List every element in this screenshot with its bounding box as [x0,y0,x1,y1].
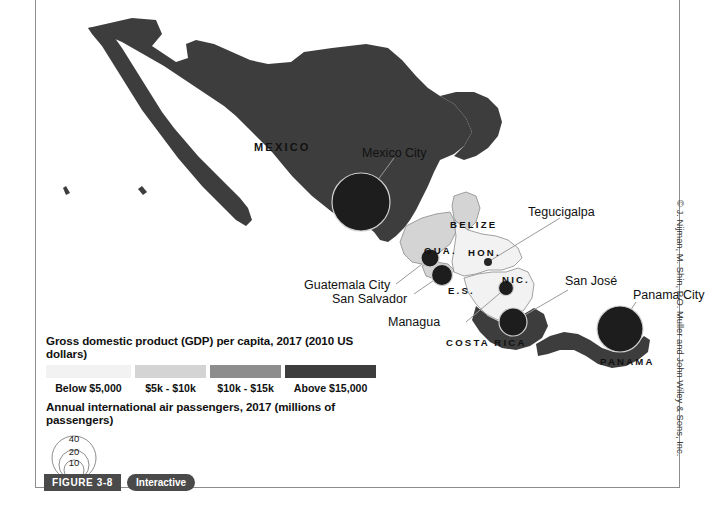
city-label-mexico-city: Mexico City [362,146,427,160]
country-label-costarica: COSTA RICA [446,337,527,348]
legend-label-5k-10k: $5k - $10k [135,382,206,394]
city-label-guatemala-city: Guatemala City [304,278,390,292]
country-label-panama: PANAMA [600,356,655,367]
figure-tag-group: FIGURE 3-8 Interactive [44,474,195,491]
city-label-san-salvador: San Salvador [332,292,407,306]
dot-tegucigalpa [484,258,492,266]
legend-label-10k-15k: $10k - $15k [210,382,281,394]
legend-air-passengers: Annual international air passengers, 201… [46,400,386,483]
country-label-mexico: MEXICO [254,141,311,153]
island-shape-4 [63,186,70,195]
country-shape-mexico [88,18,472,242]
legend-circle-value-20: 20 [62,446,86,457]
city-label-managua: Managua [388,315,440,329]
interactive-button[interactable]: Interactive [127,474,195,491]
figure-number-badge: FIGURE 3-8 [44,474,121,491]
legend-air-title: Annual international air passengers, 201… [46,400,386,426]
legend-swatch-10k-15k [210,365,281,378]
country-label-honduras: HON. [468,247,501,258]
city-label-panama-city: Panama City [633,288,705,302]
island-shape-3 [138,186,147,195]
legend-swatch-5k-10k [135,365,206,378]
legend-circle-value-10: 10 [62,457,86,468]
city-label-tegucigalpa: Tegucigalpa [528,205,595,219]
country-label-belize: BELIZE [450,219,497,230]
legend-gdp: Gross domestic product (GDP) per capita,… [46,334,376,394]
bubble-panama-city [597,306,643,352]
legend-label-below-5000: Below $5,000 [46,382,131,394]
legend-swatch-above-15000 [285,365,376,378]
legend-label-above-15000: Above $15,000 [285,382,376,394]
country-label-nicaragua: NIC. [502,274,530,285]
bubble-san-jose [499,308,527,336]
country-label-guatemala: GUA. [424,245,457,256]
legend-gdp-title: Gross domestic product (GDP) per capita,… [46,334,376,360]
country-label-elsalvador: E.S. [448,285,475,296]
legend-swatch-below-5000 [46,365,131,378]
copyright-credit: © J. Nijman, M. Shin, P.O. Muller and Jo… [675,200,686,456]
bubble-mexico-city [332,173,390,231]
city-label-san-jose: San José [565,274,617,288]
bubble-san-salvador [432,265,453,286]
legend-circle-value-40: 40 [62,433,86,444]
legend-gdp-labels: Below $5,000 $5k - $10k $10k - $15k Abov… [46,382,376,394]
legend-gdp-swatches [46,365,376,378]
figure-page: .c-dark{fill:#3d3d3d;} .c-mid{fill:#8d8d… [0,0,720,513]
